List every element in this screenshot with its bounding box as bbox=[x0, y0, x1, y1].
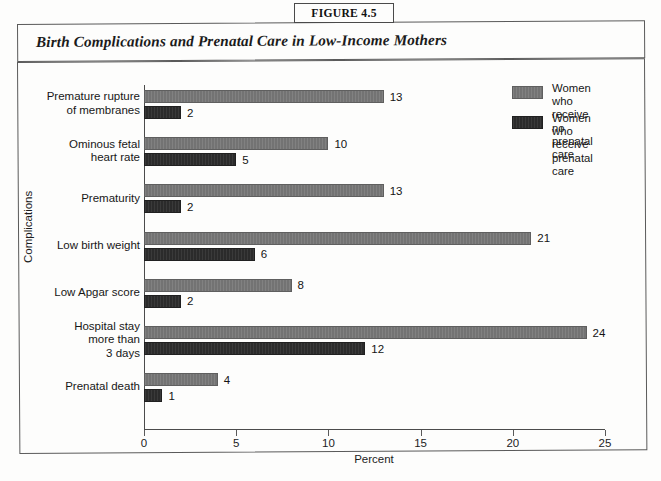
x-axis-tick bbox=[605, 430, 606, 436]
x-axis-tick-label: 10 bbox=[322, 437, 335, 449]
bar-value-label: 4 bbox=[224, 374, 230, 386]
x-axis-tick-label: 15 bbox=[414, 437, 427, 449]
bar-value-label: 13 bbox=[390, 91, 403, 103]
legend-label: Women who receive prenatal care bbox=[552, 112, 593, 178]
bar-no_prenatal_care bbox=[144, 90, 384, 103]
bar-no_prenatal_care bbox=[144, 326, 587, 339]
x-axis-tick bbox=[328, 430, 329, 436]
bar-value-label: 8 bbox=[298, 279, 304, 291]
category-label: Hospital stay more than 3 days bbox=[74, 320, 140, 361]
category-label: Prenatal death bbox=[65, 380, 140, 394]
bar-value-label: 2 bbox=[187, 295, 193, 307]
bar-value-label: 2 bbox=[187, 201, 193, 213]
x-axis-line bbox=[144, 429, 605, 430]
x-axis-tick-label: 20 bbox=[506, 437, 519, 449]
x-axis-tick-label: 25 bbox=[599, 437, 612, 449]
category-label: Low Apgar score bbox=[54, 286, 140, 300]
bar-prenatal_care bbox=[144, 295, 181, 308]
x-axis-tick bbox=[513, 430, 514, 436]
legend-swatch-prenatal_care bbox=[512, 116, 543, 129]
bar-prenatal_care bbox=[144, 106, 181, 119]
bar-value-label: 12 bbox=[371, 343, 384, 355]
x-axis-tick-label: 0 bbox=[141, 437, 147, 449]
figure-container: FIGURE 4.5 Birth Complications and Prena… bbox=[0, 0, 661, 481]
x-axis-title: Percent bbox=[354, 453, 394, 465]
bar-prenatal_care bbox=[144, 248, 255, 261]
bar-no_prenatal_care bbox=[144, 137, 328, 150]
bar-chart-plot-area: 0510152025 Premature rupture of membrane… bbox=[0, 0, 661, 481]
category-label: Premature rupture of membranes bbox=[47, 90, 140, 117]
bar-no_prenatal_care bbox=[144, 373, 218, 386]
category-label: Ominous fetal heart rate bbox=[69, 138, 140, 165]
bar-value-label: 2 bbox=[187, 107, 193, 119]
x-axis-tick bbox=[236, 430, 237, 436]
bar-value-label: 21 bbox=[537, 232, 550, 244]
bar-value-label: 24 bbox=[593, 327, 606, 339]
legend-swatch-no_prenatal_care bbox=[512, 86, 543, 99]
y-axis-title: Complications bbox=[22, 191, 34, 263]
x-axis-tick bbox=[421, 430, 422, 436]
bar-no_prenatal_care bbox=[144, 232, 531, 245]
bar-value-label: 6 bbox=[261, 248, 267, 260]
bar-prenatal_care bbox=[144, 389, 162, 402]
bar-value-label: 5 bbox=[242, 154, 248, 166]
category-label: Low birth weight bbox=[57, 239, 140, 253]
x-axis-tick bbox=[144, 430, 145, 436]
bar-prenatal_care bbox=[144, 200, 181, 213]
bar-value-label: 10 bbox=[334, 138, 347, 150]
bar-value-label: 13 bbox=[390, 185, 403, 197]
bar-no_prenatal_care bbox=[144, 184, 384, 197]
bar-value-label: 1 bbox=[168, 390, 174, 402]
category-label: Prematurity bbox=[81, 192, 140, 206]
bar-prenatal_care bbox=[144, 342, 365, 355]
bar-prenatal_care bbox=[144, 153, 236, 166]
x-axis-tick-label: 5 bbox=[233, 437, 239, 449]
bar-no_prenatal_care bbox=[144, 279, 292, 292]
